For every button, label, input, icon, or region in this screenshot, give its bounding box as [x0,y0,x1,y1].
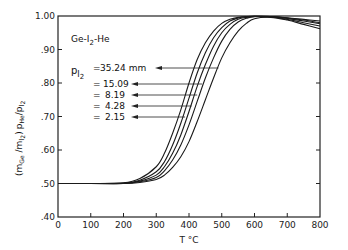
x-tick-label: 400 [180,220,197,230]
x-axis-label: T °C [178,235,198,245]
x-tick-label: 200 [115,220,132,230]
x-tick-label: 600 [246,220,263,230]
arrow-head-icon [131,115,138,119]
y-tick-label: .80 [41,78,56,88]
x-tick-label: 800 [311,220,328,230]
pressure-value: 35.24 mm [100,63,146,73]
annotation-arrows [131,66,218,119]
arrow-head-icon [131,104,138,108]
arrow-head-icon [131,93,138,97]
chart: 0100200300400500600700800 .40.50.60.70.8… [0,0,348,250]
y-tick-label: .50 [41,179,56,189]
pressure-equals: = [93,79,101,89]
pressure-value: 4.28 [105,101,125,111]
x-tick-label: 700 [279,220,296,230]
pressure-value: 8.19 [105,90,125,100]
y-tick-label: .60 [41,145,56,155]
y-tick-label: 1.00 [35,11,55,21]
pressure-label: pI2 [71,65,84,81]
x-tick-label: 0 [55,220,61,230]
arrow-head-icon [131,82,138,86]
y-axis-label: (mGe /mI2)pHe/pI2 [14,101,26,176]
x-tick-label: 100 [82,220,99,230]
y-tick-label: .90 [41,45,56,55]
pressure-value: 15.09 [103,79,129,89]
pressure-values: =35.24 mm=15.09=8.19=4.28=2.15 [93,63,146,122]
pressure-equals: = [93,90,101,100]
x-tick-label: 500 [213,220,230,230]
x-tick-label: 300 [148,220,165,230]
pressure-equals: = [93,112,101,122]
x-axis-ticks: 0100200300400500600700800 [55,213,329,230]
pressure-value: 2.15 [105,112,125,122]
y-tick-label: .70 [41,112,56,122]
arrow-head-icon [155,66,162,70]
y-tick-label: .40 [41,212,56,222]
pressure-equals: = [93,101,101,111]
system-label: Ge-I2-He [71,34,110,47]
